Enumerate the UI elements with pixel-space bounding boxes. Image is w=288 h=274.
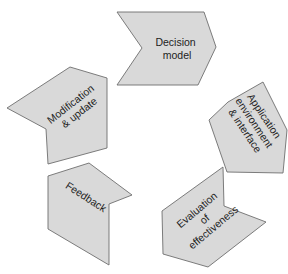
label-line: Decision — [155, 36, 195, 48]
chevron-shape — [48, 163, 132, 265]
step-decision-model: Decision model — [117, 12, 216, 85]
step-evaluation: Evaluation of effectiveness — [162, 167, 266, 267]
step-feedback: Feedback — [48, 163, 132, 265]
step-application: Application environment & interface — [209, 82, 287, 173]
label-line: model — [163, 49, 192, 61]
step-modification: Modification & update — [7, 67, 107, 164]
cycle-diagram: Decision model Application environment &… — [0, 0, 288, 274]
